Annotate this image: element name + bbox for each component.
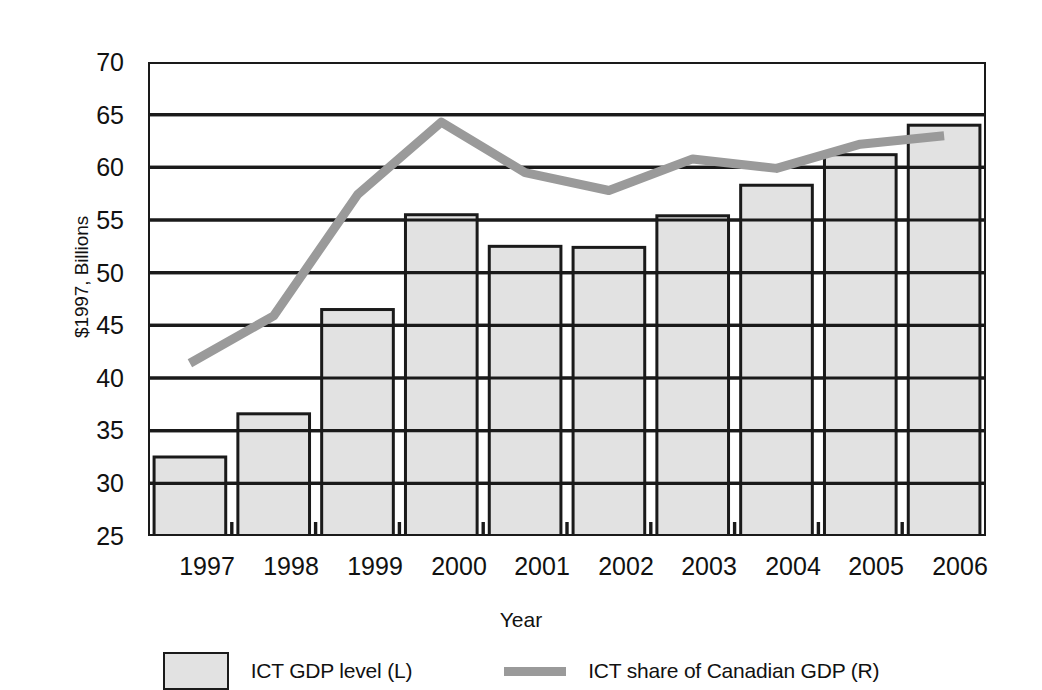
chart-legend: ICT GDP level (L) ICT share of Canadian … [0,652,1042,690]
plot-area [148,62,986,536]
y-tick-label: 70 [78,50,124,75]
chart-figure: $1997, Billions 70 65 60 55 50 45 40 35 … [0,0,1042,690]
legend-item-label: ICT share of Canadian GDP (R) [588,659,879,683]
x-tick-label: 2006 [905,552,1015,581]
y-tick-label: 45 [78,313,124,338]
bar-series [154,125,980,536]
y-tick-label: 30 [78,471,124,496]
y-tick-label: 25 [78,524,124,549]
y-tick-label: 60 [78,155,124,180]
plot-svg [148,62,986,536]
y-tick-label: 55 [78,208,124,233]
legend-item-ict-share: ICT share of Canadian GDP (R) [504,659,879,683]
y-tick-label: 50 [78,261,124,286]
x-axis-title: Year [0,608,1042,632]
y-tick-label: 35 [78,418,124,443]
y-tick-label: 40 [78,366,124,391]
y-tick-label: 65 [78,103,124,128]
legend-item-label: ICT GDP level (L) [251,659,413,683]
legend-swatch-square-icon [163,652,229,690]
legend-swatch-line-icon [504,667,566,676]
legend-item-ict-gdp-level: ICT GDP level (L) [163,652,413,690]
